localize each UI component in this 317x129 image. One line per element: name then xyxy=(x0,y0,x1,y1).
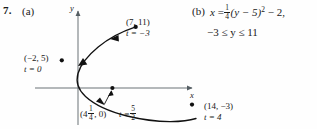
equation-domain: −3 ≤ y ≤ 11 xyxy=(207,26,258,38)
label-point-neg2-5-param: t = 0 xyxy=(24,64,49,75)
label-point-4quarter-0-param: t =52 xyxy=(119,105,137,121)
param-fraction-denominator: 2 xyxy=(130,113,136,122)
mixed-fraction-denominator: 4 xyxy=(88,113,94,122)
label-point-14-neg3: (14, −3) t = 4 xyxy=(204,101,233,122)
label-point-14-neg3-coord: (14, −3) xyxy=(204,101,233,112)
point-14-neg3 xyxy=(190,103,194,107)
figure-page: 7. (a) (b) x =14(y − 5)2 − 2, −3 ≤ y ≤ 1… xyxy=(0,0,317,129)
label-point-7-11: (7, 11) t = −3 xyxy=(126,17,150,38)
param-fraction: 52 xyxy=(130,105,136,121)
equation-coefficient-fraction: 14 xyxy=(224,4,230,20)
label-point-7-11-coord: (7, 11) xyxy=(126,17,150,28)
equation-lhs: x xyxy=(210,6,215,18)
equation-body: (y − 5) xyxy=(231,6,262,18)
mixed-rest: , 0 xyxy=(94,109,103,119)
fraction-numerator: 1 xyxy=(224,4,230,12)
label-point-4quarter-0: (414, 0) xyxy=(80,105,106,121)
leader-arrowhead-4quarter xyxy=(108,90,114,96)
param-lhs: t = xyxy=(119,109,130,119)
label-point-neg2-5-coord: (−2, 5) xyxy=(24,53,49,64)
x-axis-label: x xyxy=(189,90,194,100)
param-fraction-numerator: 5 xyxy=(130,105,136,113)
label-point-4quarter-0-coord: (414, 0) xyxy=(80,109,106,119)
equation-equals: = xyxy=(218,6,224,18)
fraction-denominator: 4 xyxy=(224,12,230,21)
mixed-fraction-numerator: 1 xyxy=(88,105,94,113)
equation-line-1: x =14(y − 5)2 − 2, xyxy=(210,4,285,20)
equation-tail: − 2, xyxy=(268,6,285,18)
mixed-fraction: 14 xyxy=(88,105,94,121)
mixed-whole: 4 xyxy=(83,109,88,119)
point-neg2-5 xyxy=(60,58,64,62)
label-point-7-11-param: t = −3 xyxy=(126,28,150,39)
y-axis-label: y xyxy=(69,3,74,13)
label-point-14-neg3-param: t = 4 xyxy=(204,112,233,123)
label-point-neg2-5: (−2, 5) t = 0 xyxy=(24,53,49,74)
equation-exponent: 2 xyxy=(261,5,265,14)
point-4quarter-0 xyxy=(110,86,114,90)
